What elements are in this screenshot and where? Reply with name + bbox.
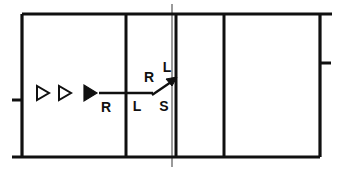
triangle-hollow-icon-1 bbox=[37, 86, 49, 100]
diagram-canvas: R R L L S bbox=[0, 0, 343, 173]
diagram-svg: R R L L S bbox=[0, 0, 343, 173]
triangle-hollow-icon-2 bbox=[59, 86, 71, 100]
label-route-r: R bbox=[101, 99, 111, 115]
label-branch-l: L bbox=[163, 59, 172, 75]
label-route-s: S bbox=[159, 98, 168, 114]
label-branch-r: R bbox=[144, 69, 154, 85]
label-route-l: L bbox=[133, 98, 142, 114]
triangle-filled-icon bbox=[84, 85, 97, 101]
